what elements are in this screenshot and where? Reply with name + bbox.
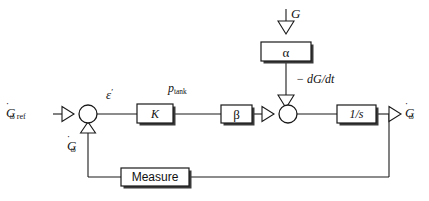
signal-label-disturbance-input: G	[291, 7, 300, 20]
diagram-canvas	[0, 0, 429, 201]
signal-label-dgdt: − dG/dt	[296, 73, 334, 85]
feedback-subscript: ω	[70, 145, 75, 154]
error-prime: ′	[111, 87, 113, 97]
summing-junction-error	[79, 105, 97, 123]
reference-input-subscript: ω ref	[9, 112, 25, 121]
arrowhead-beta-into-sum	[262, 107, 274, 122]
signal-label-error: ε′	[106, 88, 113, 101]
block-measure-label: Measure	[121, 171, 189, 183]
summing-junction-disturbance	[279, 105, 297, 123]
signal-label-tank-pressure: ptank	[168, 82, 187, 96]
signal-label-reference-input: Ġω ref	[6, 106, 32, 121]
block-beta-label: β	[221, 108, 252, 121]
output-subscript: ω	[408, 112, 413, 121]
block-gain-k-label: K	[137, 108, 173, 120]
signal-label-output: Ġω	[405, 106, 420, 121]
arrowhead-feedback-into-sum	[81, 122, 96, 133]
tank-pressure-subscript: tank	[174, 87, 187, 96]
block-integrator-label: 1/s	[337, 108, 376, 120]
arrowhead-disturbance-into-alpha	[278, 21, 294, 34]
block-diagram: K β α 1/s Measure Ġω ref Ġω ε′ ptank G…	[0, 0, 429, 201]
block-alpha-label: α	[261, 46, 311, 59]
signal-label-feedback: Ġω	[67, 139, 82, 154]
arrowhead-reference-into-sum	[62, 107, 74, 122]
arrowhead-output	[389, 107, 401, 122]
